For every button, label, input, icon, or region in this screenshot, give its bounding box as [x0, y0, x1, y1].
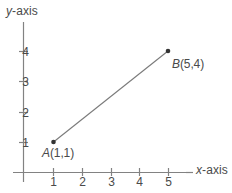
- y-tick-label-1: 1: [17, 137, 29, 149]
- y-tick-label-4: 4: [17, 46, 29, 58]
- point-a-marker: [51, 140, 56, 145]
- y-axis-label: y-axis: [6, 5, 38, 17]
- y-tick-label-2: 2: [17, 107, 29, 119]
- point-b-name: B: [172, 57, 180, 71]
- y-tick-label-3: 3: [17, 76, 29, 88]
- x-tick-label-5: 5: [162, 176, 176, 188]
- x-tick-label-2: 2: [76, 176, 90, 188]
- y-axis-suffix: -axis: [12, 4, 38, 18]
- point-a-name: A: [42, 146, 50, 160]
- segment-ab: [54, 51, 169, 142]
- point-b-marker: [166, 49, 171, 54]
- point-b-label: B(5,4): [172, 58, 204, 70]
- x-tick-label-4: 4: [133, 176, 147, 188]
- x-axis-suffix: -axis: [202, 163, 228, 177]
- point-a-coords: (1,1): [50, 146, 74, 160]
- x-tick-label-3: 3: [105, 176, 119, 188]
- x-axis-label: x-axis: [196, 164, 228, 176]
- point-a-label: A(1,1): [42, 147, 74, 159]
- coordinate-plane-figure: y-axis x-axis 1 2 3 4 5 1 2 3 4 A(1,1) B…: [0, 0, 232, 193]
- x-tick-label-1: 1: [47, 176, 61, 188]
- point-b-coords: (5,4): [180, 57, 204, 71]
